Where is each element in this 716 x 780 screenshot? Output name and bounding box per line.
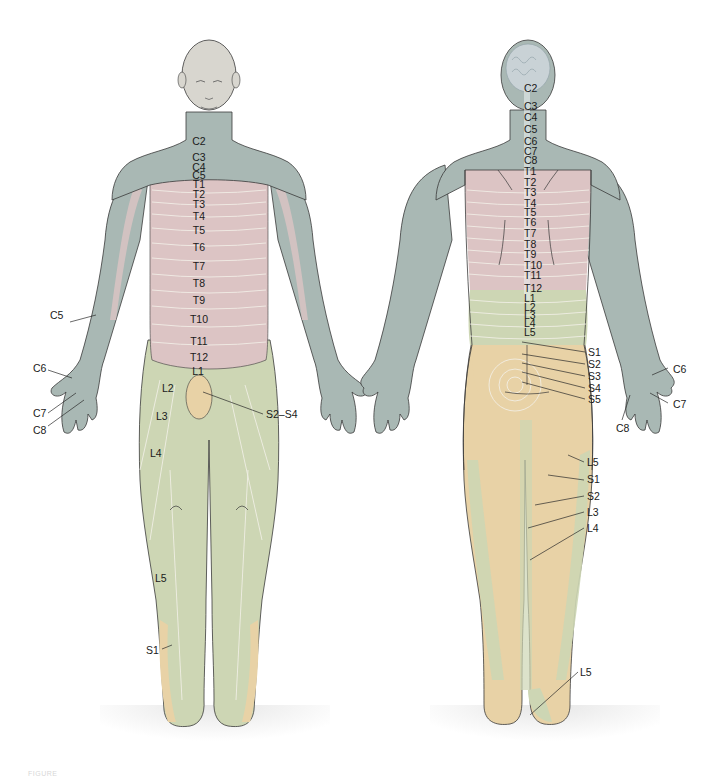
label-C8: C8 (524, 155, 537, 166)
label-L3: L3 (156, 411, 168, 422)
label-C6-hand: C6 (673, 364, 686, 375)
label-T5: T5 (193, 225, 205, 236)
label-T6: T6 (524, 217, 536, 228)
label-T9: T9 (193, 295, 205, 306)
label-L5-heel: L5 (580, 667, 592, 678)
label-L2: L2 (162, 383, 174, 394)
label-L3-leg: L3 (587, 507, 599, 518)
label-S2-S4: S2–S4 (266, 409, 298, 420)
figure-caption: FIGURE (28, 770, 57, 777)
label-L4-leg: L4 (587, 523, 599, 534)
label-C6-hand: C6 (33, 363, 46, 374)
back-left-arm (361, 165, 452, 433)
label-T10: T10 (190, 314, 208, 325)
label-S2: S2 (588, 359, 601, 370)
label-C7-hand: C7 (33, 408, 46, 419)
dermatome-illustration (0, 0, 716, 780)
label-T7: T7 (193, 261, 205, 272)
label-T11: T11 (524, 270, 541, 281)
posterior-figure (361, 40, 680, 765)
label-C5: C5 (524, 124, 537, 135)
label-S1-leg: S1 (587, 474, 600, 485)
label-T11: T11 (190, 336, 207, 347)
label-T6: T6 (193, 242, 205, 253)
label-C7-hand: C7 (673, 399, 686, 410)
label-T4: T4 (193, 211, 205, 222)
label-S2-leg: S2 (587, 491, 600, 502)
label-C2: C2 (524, 83, 537, 94)
label-S1: S1 (146, 645, 159, 656)
label-C2: C2 (192, 136, 205, 147)
label-T1: T1 (524, 166, 536, 177)
label-C8-hand: C8 (33, 425, 46, 436)
label-S5: S5 (588, 394, 601, 405)
label-L1: L1 (192, 366, 204, 377)
dermatome-figure: C2 C3 C4 C5 T1 T2 T3 T4 T5 T6 T7 T8 T9 T… (0, 0, 716, 780)
label-T8: T8 (193, 278, 205, 289)
label-T7: T7 (524, 228, 536, 239)
label-L4: L4 (150, 448, 162, 459)
label-C3: C3 (524, 101, 537, 112)
label-T3: T3 (524, 187, 536, 198)
label-C4: C4 (524, 112, 537, 123)
label-S3: S3 (588, 371, 601, 382)
front-genital-region (186, 375, 212, 419)
label-L5: L5 (155, 573, 167, 584)
label-S4: S4 (588, 383, 601, 394)
label-C5-arm: C5 (50, 310, 63, 321)
label-T9: T9 (524, 249, 536, 260)
label-S1: S1 (588, 347, 601, 358)
label-L5-leg: L5 (587, 457, 599, 468)
label-T3: T3 (193, 199, 205, 210)
front-trunk (150, 165, 268, 369)
label-T12: T12 (190, 352, 208, 363)
label-L5: L5 (524, 327, 536, 338)
anterior-figure (51, 40, 367, 765)
label-C8-hand: C8 (616, 423, 629, 434)
